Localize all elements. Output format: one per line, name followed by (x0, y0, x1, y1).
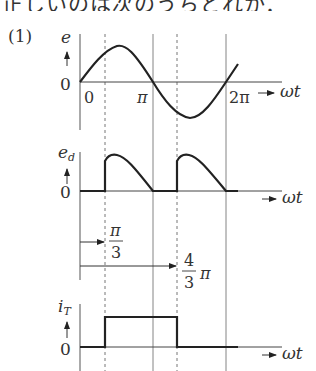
alpha-denominator: 3 (111, 243, 121, 262)
waveform-diagram: e 0 0 π 2π ωt ed 0 ωt π 3 4 (0, 0, 316, 371)
e-ylabel: e (61, 27, 71, 47)
plot-e: e 0 0 π 2π ωt (60, 27, 301, 118)
ed-xlabel: ωt (282, 187, 303, 207)
beta-numerator: 4 (184, 251, 194, 270)
ed-zero-label: 0 (60, 182, 71, 202)
alpha-numerator: π (109, 221, 121, 240)
ed-waveform (80, 155, 238, 191)
iT-waveform (80, 317, 238, 347)
beta-denominator: 3 (184, 273, 194, 292)
e-zero-label: 0 (60, 74, 71, 94)
e-tick-pi: π (136, 88, 148, 107)
diagram-page: 正しいのは次のうちどれか． (1) (0, 0, 316, 371)
angle-annotations: π 3 4 3 π (80, 221, 211, 292)
e-tick-2pi: 2π (229, 88, 250, 107)
plot-ed: ed 0 ωt (58, 142, 303, 207)
e-xlabel: ωt (280, 81, 301, 101)
e-tick-0: 0 (84, 88, 94, 107)
iT-xlabel: ωt (282, 343, 303, 363)
plot-iT: iT 0 ωt (58, 296, 303, 363)
ed-ylabel: ed (58, 142, 75, 164)
beta-pi-suffix: π (199, 264, 211, 283)
reference-lines (80, 34, 226, 371)
iT-ylabel: iT (58, 296, 72, 318)
iT-zero-label: 0 (60, 339, 71, 359)
